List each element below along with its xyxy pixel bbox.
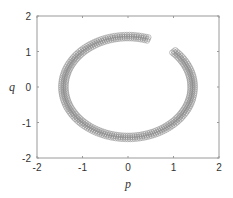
x-axis-label: p [124, 177, 131, 191]
y-tick-label: -2 [22, 153, 31, 164]
y-tick-label: 1 [25, 47, 31, 58]
y-tick-label: 2 [25, 11, 31, 22]
y-tick-label: -1 [22, 118, 31, 129]
y-tick-label: 0 [25, 82, 31, 93]
x-tick-label: 0 [125, 162, 131, 173]
y-axis-label: q [9, 80, 15, 94]
x-tick-label: 1 [171, 162, 177, 173]
x-tick-label: 2 [216, 162, 222, 173]
phase-plot: -2-1012 210-1-2 p q [0, 0, 233, 198]
x-tick-label: -1 [78, 162, 87, 173]
x-tick-label: -2 [33, 162, 42, 173]
